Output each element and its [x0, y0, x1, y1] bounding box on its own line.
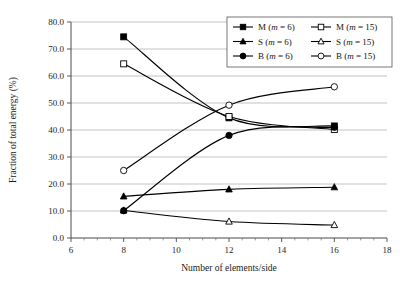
chart-legend: M (m = 6)M (m = 15)S (m = 6)S (m = 15)B … [227, 17, 392, 67]
x-tick-label: 8 [121, 245, 126, 255]
y-tick-label: 40.0 [48, 125, 64, 135]
data-point-marker-filled-square [240, 24, 246, 30]
data-point-marker-open-circle [331, 84, 337, 90]
x-axis-tick-labels: 681012141618 [69, 245, 392, 255]
series-filled-circle [120, 124, 337, 214]
y-tick-label: 30.0 [48, 152, 64, 162]
y-tick-label: 60.0 [48, 71, 64, 81]
x-axis-title: Number of elements/side [181, 263, 277, 273]
data-point-marker-open-square [226, 114, 232, 120]
x-tick-label: 10 [172, 245, 182, 255]
data-point-marker-open-circle [318, 53, 324, 59]
series-open-square [121, 61, 338, 133]
legend-label: M (m = 6) [258, 22, 295, 32]
x-tick-label: 18 [383, 245, 393, 255]
y-tick-label: 50.0 [48, 98, 64, 108]
data-point-marker-filled-square [121, 34, 127, 40]
legend-label: B (m = 6) [258, 51, 293, 61]
y-axis-title: Fraction of total energy (%) [8, 77, 19, 183]
y-tick-label: 20.0 [48, 179, 64, 189]
series-open-circle [120, 84, 337, 174]
data-point-marker-open-circle [120, 167, 126, 173]
legend-label: B (m = 15) [336, 51, 375, 61]
chart-figure: 0.010.020.030.040.050.060.070.080.0 6810… [0, 0, 406, 283]
y-tick-label: 70.0 [48, 44, 64, 54]
data-point-marker-filled-circle [240, 53, 246, 59]
legend-label: S (m = 15) [336, 37, 374, 47]
data-point-marker-open-circle [226, 102, 232, 108]
data-point-marker-filled-circle [226, 132, 232, 138]
data-point-marker-open-square [121, 61, 127, 67]
series-line [124, 127, 335, 211]
series-line [124, 87, 335, 171]
energy-fraction-line-chart: 0.010.020.030.040.050.060.070.080.0 6810… [0, 0, 406, 283]
y-tick-label: 10.0 [48, 206, 64, 216]
y-axis-tick-labels: 0.010.020.030.040.050.060.070.080.0 [48, 17, 64, 243]
x-tick-label: 16 [330, 245, 340, 255]
legend-label: S (m = 6) [258, 37, 292, 47]
series-open-triangle [120, 207, 337, 228]
data-point-marker-filled-circle [120, 208, 126, 214]
series-filled-triangle [120, 184, 337, 199]
data-point-marker-filled-circle [331, 124, 337, 130]
x-tick-label: 14 [277, 245, 287, 255]
data-point-marker-open-square [318, 24, 324, 30]
y-tick-label: 0.0 [53, 233, 65, 243]
x-tick-label: 6 [69, 245, 74, 255]
y-tick-label: 80.0 [48, 17, 64, 27]
legend-label: M (m = 15) [336, 22, 377, 32]
x-tick-label: 12 [225, 245, 234, 255]
